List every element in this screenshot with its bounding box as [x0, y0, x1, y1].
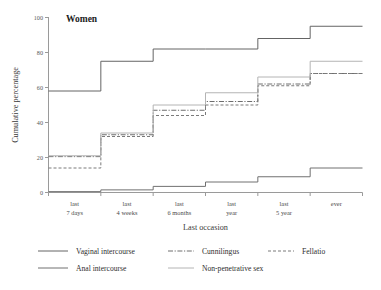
legend-label: Cunnilingus [202, 247, 239, 256]
series-line-fellatio [49, 74, 363, 169]
cumulative-percentage-chart: Women020406080100Cumulative percentagela… [0, 0, 381, 290]
series-line-anal-intercourse [49, 168, 363, 192]
legend-label: Fellatio [302, 247, 325, 256]
x-axis-tick-label: last [280, 200, 289, 207]
legend-item: Anal intercourse [38, 264, 127, 273]
x-axis-tick-label: year [226, 209, 238, 216]
legend-item: Vaginal intercourse [38, 247, 135, 256]
legend-item: Fellatio [268, 247, 325, 256]
legend-item: Non-penetrative sex [168, 264, 264, 273]
y-axis-tick-label: 60 [37, 84, 43, 91]
x-axis-tick-label: last [70, 200, 79, 207]
y-axis-tick-label: 20 [37, 154, 43, 161]
x-axis-tick-label: 6 months [168, 209, 192, 216]
x-axis-title: Last occasion [183, 223, 228, 232]
legend-label: Non-penetrative sex [202, 264, 264, 273]
x-axis-tick-label: last [123, 200, 132, 207]
y-axis-title: Cumulative percentage [11, 67, 20, 143]
x-axis-tick-label: 7 days [66, 209, 83, 216]
chart-title: Women [66, 14, 98, 24]
series-line-cunnilingus [49, 74, 363, 157]
y-axis-tick-label: 40 [37, 119, 43, 126]
x-axis-tick-label: last [175, 200, 184, 207]
series-line-vaginal-intercourse [49, 26, 363, 91]
x-axis-tick-label: ever [331, 200, 343, 207]
legend-label: Vaginal intercourse [76, 247, 135, 256]
x-axis-tick-label: last [227, 200, 236, 207]
x-axis-tick-label: 5 year [276, 209, 293, 216]
legend-item: Cunnilingus [168, 247, 239, 256]
chart-container: Women020406080100Cumulative percentagela… [0, 0, 381, 290]
y-axis-tick-label: 80 [37, 49, 43, 56]
legend-label: Anal intercourse [76, 264, 127, 273]
y-axis-tick-label: 0 [40, 189, 43, 196]
y-axis-tick-label: 100 [34, 14, 43, 21]
x-axis-tick-label: 4 weeks [117, 209, 138, 216]
